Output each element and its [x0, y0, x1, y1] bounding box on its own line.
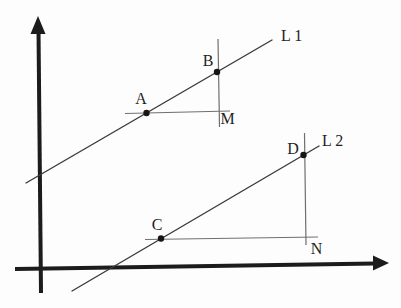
segment-bm-vertical	[218, 39, 220, 127]
point-b-label: B	[203, 52, 214, 69]
x-axis-line	[15, 264, 375, 270]
foot-n-label: N	[311, 240, 323, 257]
y-axis-line	[39, 30, 42, 293]
segment-am-horizontal	[125, 111, 230, 114]
point-d-dot	[300, 152, 306, 158]
y-axis-arrowhead-icon	[31, 16, 46, 34]
point-c-label: C	[152, 216, 163, 233]
x-axis-arrowhead-icon	[373, 256, 389, 271]
line-l2-label: L 2	[322, 132, 343, 149]
line-l1-label: L 1	[281, 27, 302, 44]
point-b-dot	[214, 69, 220, 75]
point-a-label: A	[135, 90, 147, 107]
segment-dn-vertical	[305, 133, 307, 245]
geometry-figure: A B C D M N L 1 L 2	[0, 0, 401, 308]
y-axis	[31, 16, 46, 293]
point-c-dot	[158, 235, 164, 241]
point-d-label: D	[287, 140, 299, 157]
x-axis	[15, 256, 389, 271]
foot-m-label: M	[220, 110, 234, 127]
point-a-dot	[143, 110, 149, 116]
line-l2	[72, 146, 319, 291]
segment-cn-horizontal	[145, 237, 318, 240]
parallel-lines-diagram-canvas: A B C D M N L 1 L 2	[0, 0, 401, 308]
